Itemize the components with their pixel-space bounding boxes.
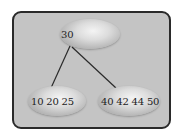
right-child-keys: 40 42 44 50 — [101, 96, 159, 107]
left-child-keys: 10 20 25 — [31, 96, 74, 107]
right-child-node: 40 42 44 50 — [98, 86, 160, 116]
edge-root-right — [72, 47, 116, 88]
root-node: 30 — [60, 19, 120, 49]
edge-root-left — [51, 46, 70, 88]
root-keys: 30 — [61, 29, 73, 40]
left-child-node: 10 20 25 — [28, 86, 86, 116]
